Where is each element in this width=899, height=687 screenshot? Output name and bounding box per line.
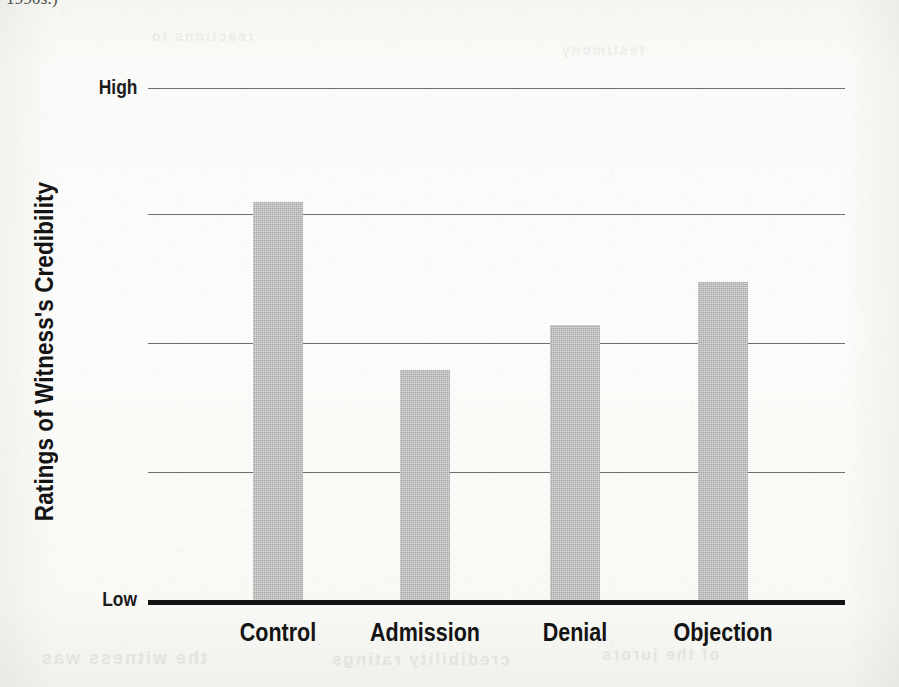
y-axis-high-label: High [98,76,137,99]
bar-chart: High Low Ratings of Witness's Credibilit… [0,0,899,687]
bar-admission [400,370,450,600]
y-axis-low-label: Low [102,588,137,611]
x-axis-label-denial: Denial [543,618,608,647]
bar-control [253,202,303,600]
gridline-0 [148,88,845,89]
x-axis-baseline [148,600,845,605]
y-axis-title: Ratings of Witness's Credibility [22,155,66,547]
x-axis-label-admission: Admission [370,618,480,647]
y-axis-title-text: Ratings of Witness's Credibility [30,181,59,520]
x-axis-label-objection: Objection [673,618,772,647]
x-axis-label-control: Control [240,618,316,647]
bar-objection [698,282,748,600]
bar-denial [550,325,600,600]
scanned-figure-page: 1990s.) the witness was credibility rati… [0,0,899,687]
